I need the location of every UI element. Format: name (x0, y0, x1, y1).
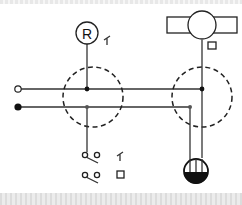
switch-1 (82, 152, 123, 163)
lamp-valve (184, 159, 208, 184)
schematic-diagram: R (0, 0, 242, 205)
filled-terminal-icon (14, 103, 21, 110)
supply-wires (21, 89, 202, 107)
rotor-circle-icon (188, 11, 216, 39)
square-icon (208, 42, 216, 49)
relay-contact-icon (104, 36, 110, 45)
junction-box-left (63, 67, 123, 127)
square-icon (117, 171, 124, 178)
switch-2 (82, 171, 124, 183)
relay-label: R (82, 26, 92, 42)
relay-R: R (76, 22, 110, 89)
relay-contact-icon (117, 152, 123, 161)
junction-dot (85, 87, 90, 92)
motor-rotor (167, 11, 237, 158)
junction-dot (188, 105, 192, 109)
junction-dot (85, 105, 89, 109)
open-terminal-icon (15, 86, 21, 92)
bottom-border (0, 193, 242, 205)
junction-dot (200, 87, 205, 92)
